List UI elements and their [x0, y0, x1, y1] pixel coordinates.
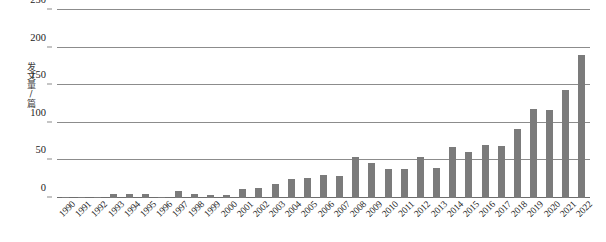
- y-axis-tick-mark: [47, 9, 52, 10]
- bar: [223, 195, 230, 198]
- bar: [562, 90, 569, 198]
- y-axis-tick-mark: [47, 84, 52, 85]
- bar: [433, 168, 440, 198]
- x-axis-tick-label: 2002: [251, 199, 271, 219]
- y-axis-tick-mark: [47, 46, 52, 47]
- bar: [191, 194, 198, 199]
- bar: [239, 189, 246, 198]
- bar: [207, 195, 214, 198]
- x-axis-tick-label: 2014: [445, 199, 465, 219]
- x-axis-tick-label: 2007: [332, 199, 352, 219]
- x-axis-tick-label: 2012: [413, 199, 433, 219]
- x-axis-tick-label: 2021: [558, 199, 578, 219]
- bar: [78, 197, 85, 198]
- x-axis-tick-label: 1995: [138, 199, 158, 219]
- y-axis-tick-label: 100: [30, 106, 46, 117]
- bar: [401, 169, 408, 198]
- bar: [255, 188, 262, 198]
- x-axis-tick-label: 2015: [461, 199, 481, 219]
- bar: [417, 157, 424, 198]
- x-axis-tick-label: 2008: [348, 199, 368, 219]
- bar-series: [57, 10, 590, 198]
- bar: [94, 197, 101, 198]
- x-axis-ticks: 1990199119921993199419951996199719981999…: [57, 199, 590, 242]
- bar: [336, 176, 343, 198]
- x-axis-tick-label: 2009: [364, 199, 384, 219]
- y-axis-tick-mark: [47, 159, 52, 160]
- x-axis-tick-label: 1999: [203, 199, 223, 219]
- x-axis-tick-label: 2001: [235, 199, 255, 219]
- bar: [449, 147, 456, 198]
- x-axis-tick-label: 2013: [429, 199, 449, 219]
- y-axis-tick-mark: [47, 121, 52, 122]
- bar: [385, 169, 392, 198]
- y-axis-tick-label: 250: [30, 0, 46, 5]
- x-axis-tick-label: 2019: [526, 199, 546, 219]
- y-axis-tick-mark: [47, 197, 52, 198]
- x-axis-tick-label: 1994: [122, 199, 142, 219]
- bar: [272, 184, 279, 198]
- y-axis-tick-label: 200: [30, 31, 46, 42]
- x-axis-tick-label: 2022: [574, 199, 594, 219]
- y-axis-tick-label: 150: [30, 69, 46, 80]
- bar: [546, 110, 553, 198]
- bar: [514, 129, 521, 198]
- bar: [368, 163, 375, 198]
- bar: [352, 157, 359, 198]
- x-axis-tick-label: 2020: [542, 199, 562, 219]
- x-axis-tick-label: 2000: [219, 199, 239, 219]
- bar: [320, 175, 327, 198]
- x-axis-tick-label: 2005: [299, 199, 319, 219]
- y-axis-tick-label: 0: [41, 182, 46, 193]
- bar: [530, 109, 537, 198]
- bar: [110, 194, 117, 198]
- x-axis-tick-label: 2006: [316, 199, 336, 219]
- plot-area: [57, 10, 590, 198]
- bar: [304, 178, 311, 198]
- bar: [482, 145, 489, 198]
- y-axis-tick-label: 50: [36, 144, 47, 155]
- bar: [175, 191, 182, 198]
- bar: [126, 194, 133, 198]
- publication-count-bar-chart: 发文量/篇 050100150200250 199019911992199319…: [0, 0, 606, 242]
- bar: [578, 55, 585, 198]
- bar: [288, 179, 295, 198]
- bar: [498, 146, 505, 198]
- x-axis-tick-label: 1992: [90, 199, 110, 219]
- bar: [142, 194, 149, 198]
- bar: [465, 152, 472, 198]
- y-axis-ticks: 050100150200250: [0, 10, 52, 198]
- bar: [158, 197, 165, 198]
- bar: [62, 197, 69, 199]
- x-axis-tick-label: 1993: [106, 199, 126, 219]
